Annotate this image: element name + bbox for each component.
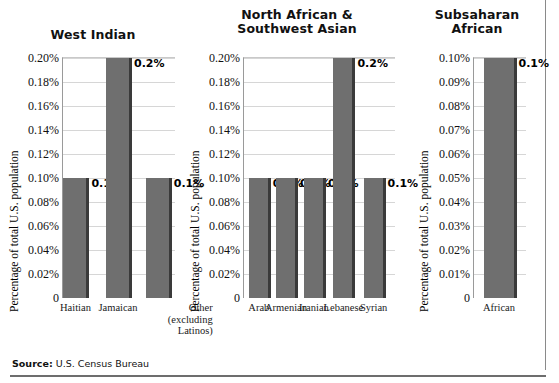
y-axis-tick-label: 0.12% (209, 147, 240, 162)
gridline (244, 154, 395, 155)
y-axis-tick-label: 0.18% (28, 75, 59, 90)
y-axis-tick-label: 0.02% (439, 243, 470, 258)
gridline (244, 130, 395, 131)
gridline (244, 106, 395, 107)
chart-panel-west-indian: West Indian Percentage of total U.S. pop… (0, 0, 186, 330)
y-axis-tick-label: 0.04% (209, 243, 240, 258)
y-axis-label-subsaharan-african: Percentage of total U.S. population (418, 150, 430, 312)
y-axis-tick-label: 0.02% (209, 267, 240, 282)
chart-title-line: North African & (186, 8, 408, 22)
frame-bottom-rule (10, 375, 546, 377)
bar (249, 178, 271, 298)
y-axis-tick-label: 0.09% (439, 75, 470, 90)
bar (364, 178, 386, 298)
bar (304, 178, 326, 298)
bar (333, 58, 355, 298)
bar (63, 178, 89, 298)
y-axis-tick-label: 0.08% (439, 99, 470, 114)
y-axis-label-north-african: Percentage of total U.S. population (189, 150, 201, 312)
x-axis-category-label: African (483, 302, 515, 313)
y-axis-tick-label: 0.06% (439, 147, 470, 162)
y-axis-tick-label: 0 (53, 291, 59, 306)
y-axis-tick-label: 0.04% (439, 195, 470, 210)
chart-panel-north-african: North African &Southwest Asian Percentag… (186, 0, 408, 330)
bar-value-label: 0.2% (357, 57, 388, 70)
y-axis-tick-label: 0 (464, 291, 470, 306)
y-axis-tick-label: 0.06% (209, 219, 240, 234)
y-axis-tick-label: 0.06% (28, 219, 59, 234)
bar-value-label: 0.1% (519, 57, 550, 70)
chart-title-subsaharan-african: SubsaharanAfrican (408, 8, 546, 35)
chart-title-west-indian: West Indian (0, 28, 186, 42)
y-axis-tick-label: 0.04% (28, 243, 59, 258)
y-axis-tick-label: 0.16% (209, 99, 240, 114)
plot-area-north-african: 0.20%0.18%0.16%0.14%0.12%0.10%0.08%0.06%… (243, 57, 395, 298)
y-axis-tick-label: 0.07% (439, 123, 470, 138)
x-axis-category-line: Syrian (360, 302, 387, 313)
y-axis-tick-label: 0.01% (439, 267, 470, 282)
bar (146, 178, 172, 298)
y-axis-tick-label: 0.14% (28, 123, 59, 138)
plot-area-subsaharan-african: 0.10%0.09%0.08%0.07%0.06%0.05%0.04%0.03%… (473, 57, 526, 298)
plot-area-west-indian: 0.20%0.18%0.16%0.14%0.12%0.10%0.08%0.06%… (62, 57, 175, 298)
y-axis-tick-label: 0.05% (439, 171, 470, 186)
y-axis-tick-label: 0.10% (209, 171, 240, 186)
y-axis-tick-label: 0.18% (209, 75, 240, 90)
y-axis-tick-label: 0.03% (439, 219, 470, 234)
y-axis-tick-label: 0.10% (439, 51, 470, 66)
y-axis-tick-label: 0 (234, 291, 240, 306)
x-axis-category-line: Haitian (60, 302, 91, 313)
x-axis-category-line: Lebanese (324, 302, 364, 313)
y-axis-tick-label: 0.02% (28, 267, 59, 282)
chart-title-line: African (408, 22, 546, 36)
y-axis-tick-label: 0.20% (28, 51, 59, 66)
y-axis-tick-label: 0.14% (209, 123, 240, 138)
bar (106, 58, 132, 298)
x-axis-category-label: Jamaican (98, 302, 137, 313)
bar-value-label: 0.2% (134, 57, 165, 70)
chart-title-line: Subsaharan (408, 8, 546, 22)
chart-panel-subsaharan-african: SubsaharanAfrican Percentage of total U.… (408, 0, 546, 330)
figure-root: West Indian Percentage of total U.S. pop… (0, 0, 559, 383)
chart-title-north-african: North African &Southwest Asian (186, 8, 408, 35)
source-value: U.S. Census Bureau (56, 358, 149, 369)
chart-title-line: Southwest Asian (186, 22, 408, 36)
y-axis-tick-label: 0.08% (28, 195, 59, 210)
x-axis-category-line: Jamaican (98, 302, 137, 313)
y-axis-tick-label: 0.16% (28, 99, 59, 114)
bar (276, 178, 298, 298)
x-axis-category-line: African (483, 302, 515, 313)
x-axis-category-label: Lebanese (324, 302, 364, 313)
y-axis-tick-label: 0.12% (28, 147, 59, 162)
bar (484, 58, 517, 298)
source-note: Source: U.S. Census Bureau (12, 358, 149, 369)
y-axis-tick-label: 0.08% (209, 195, 240, 210)
x-axis-category-label: Syrian (360, 302, 387, 313)
y-axis-tick-label: 0.10% (28, 171, 59, 186)
source-label: Source: (12, 358, 53, 369)
y-axis-tick-label: 0.20% (209, 51, 240, 66)
y-axis-label-west-indian: Percentage of total U.S. population (8, 150, 20, 312)
gridline (244, 82, 395, 83)
x-axis-category-label: Haitian (60, 302, 91, 313)
